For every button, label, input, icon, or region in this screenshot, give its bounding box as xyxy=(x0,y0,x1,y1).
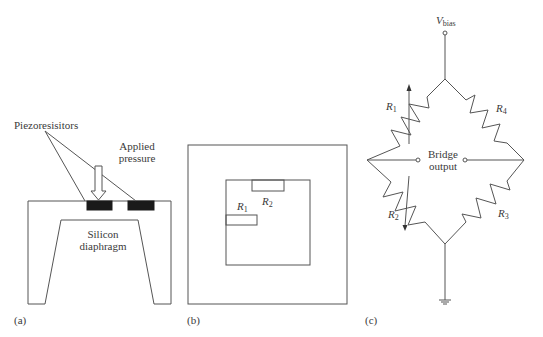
label-c-r1-main: R xyxy=(386,100,393,112)
label-vbias: Vbias xyxy=(436,14,456,29)
arrow-up-icon xyxy=(407,84,412,91)
label-silicon-diaphragm-line2: diaphragm xyxy=(73,240,133,252)
label-applied-pressure-line2: pressure xyxy=(112,152,162,164)
label-b-r2-sub: 2 xyxy=(269,200,273,209)
label-b-r1-sub: 1 xyxy=(244,205,248,214)
label-piezoresistors: Piezoresisitors xyxy=(14,119,78,131)
label-c-r3-main: R xyxy=(498,207,505,219)
diaphragm-outline xyxy=(28,201,171,304)
label-bridge-output-line2: output xyxy=(421,160,465,172)
label-b-r2-main: R xyxy=(262,195,269,207)
label-b-r1: R1 xyxy=(237,200,248,215)
vbias-terminal-icon xyxy=(443,31,447,35)
label-applied-pressure-line1: Applied xyxy=(112,140,162,152)
ground-icon xyxy=(439,300,451,304)
label-silicon-diaphragm-line1: Silicon xyxy=(73,228,133,240)
panel-c-tag: (c) xyxy=(365,314,377,326)
label-c-r4-main: R xyxy=(496,102,503,114)
panel-b-tag: (b) xyxy=(187,314,200,326)
r2-variable-arrow xyxy=(405,176,409,226)
label-silicon-diaphragm: Silicon diaphragm xyxy=(73,228,133,252)
label-c-r1-sub: 1 xyxy=(393,105,397,114)
label-c-r4: R4 xyxy=(496,102,507,117)
diaphragm-area xyxy=(226,180,310,265)
label-b-r2: R2 xyxy=(262,195,273,210)
outer-frame xyxy=(188,145,347,304)
label-c-r1: R1 xyxy=(386,100,397,115)
arrow-down-icon xyxy=(403,225,408,231)
resistor-r2-shape xyxy=(252,180,284,191)
label-c-r3: R3 xyxy=(498,207,509,222)
resistor-r3-zigzag xyxy=(445,160,524,244)
label-applied-pressure: Applied pressure xyxy=(112,140,162,164)
label-bridge-output-line1: Bridge xyxy=(421,148,465,160)
label-bridge-output: Bridge output xyxy=(421,148,465,172)
output-terminal-left-icon xyxy=(416,158,420,162)
label-c-r3-sub: 3 xyxy=(505,212,509,221)
resistor-r1-shape xyxy=(226,215,257,225)
label-c-r2-sub: 2 xyxy=(395,213,399,222)
label-vbias-main: V xyxy=(436,14,443,26)
piezoresistor-left xyxy=(87,201,112,210)
leader-line-left xyxy=(45,131,85,201)
pressure-arrow-icon xyxy=(91,166,106,200)
piezoresistor-right xyxy=(128,201,154,210)
label-c-r4-sub: 4 xyxy=(503,107,507,116)
label-vbias-sub: bias xyxy=(443,19,456,28)
panel-a-tag: (a) xyxy=(14,314,26,326)
resistor-r2-zigzag xyxy=(367,160,445,244)
label-b-r1-main: R xyxy=(237,200,244,212)
panel-b-diagram xyxy=(188,145,347,304)
label-c-r2: R2 xyxy=(388,208,399,223)
label-c-r2-main: R xyxy=(388,208,395,220)
